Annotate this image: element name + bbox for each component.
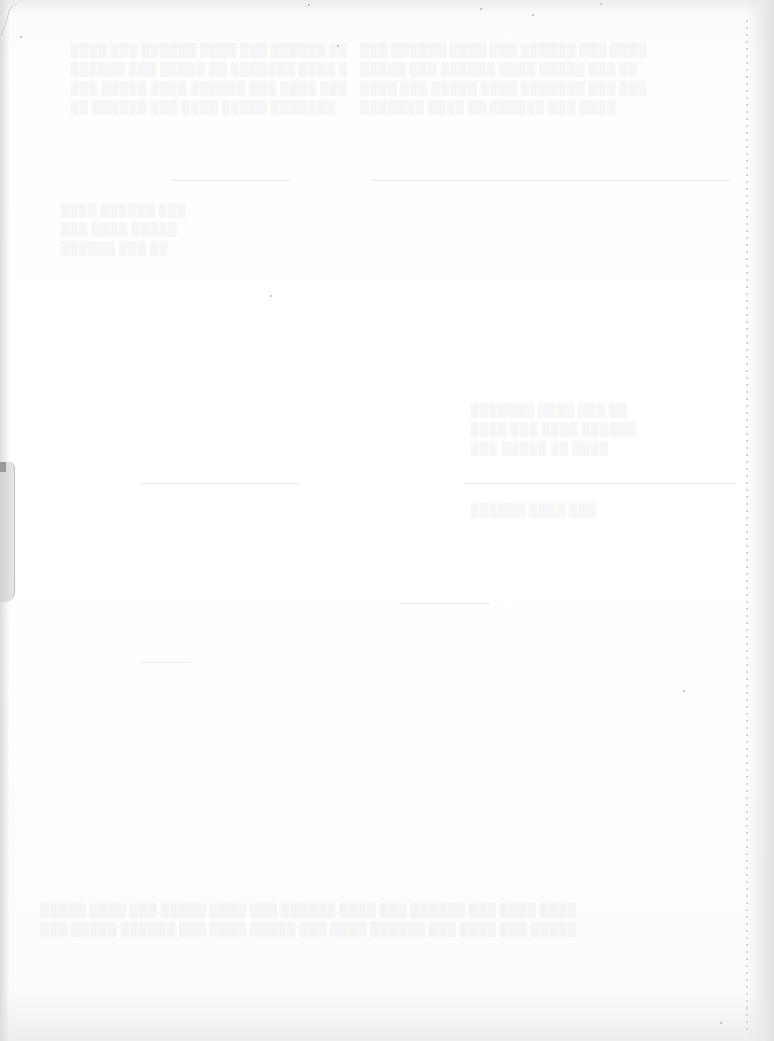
- faint-rule-1: [170, 180, 290, 181]
- faint-rule-4: [465, 483, 735, 484]
- bleed-through-text-top-right: ███ ██████ ████ ███ ██████ ███ ████ ████…: [360, 40, 647, 116]
- scan-speck: [532, 14, 534, 16]
- scan-speck: [683, 690, 685, 692]
- bleed-through-text-mid-right: ███████ ████ ███ ██ ████ ███ ████ ██████…: [470, 400, 636, 457]
- scan-speck: [20, 36, 22, 38]
- faint-rule-6: [140, 662, 190, 663]
- left-page-curl: [0, 462, 15, 602]
- binding-mark: [0, 462, 6, 472]
- perforated-edge: [746, 20, 748, 1030]
- scan-speck: [600, 3, 602, 5]
- scan-speck: [720, 1022, 722, 1024]
- scan-speck: [270, 295, 272, 297]
- bleed-through-text-bottom: █████ ████ ███ █████ ████ ███ ██████ ███…: [40, 900, 576, 938]
- bleed-through-text-lower-right: ██████ ████ ███: [470, 500, 596, 519]
- right-edge-shadow: [746, 0, 774, 1041]
- scanned-page: ████ ███ ██████ ████ ███ ██████ ██ █████…: [0, 0, 774, 1041]
- scan-speck: [308, 4, 310, 6]
- bleed-through-text-mid-left: ████ ██████ ███ ███ ████ █████ ██████ ██…: [60, 200, 186, 257]
- scan-speck: [480, 8, 482, 10]
- bleed-through-text-top-left: ████ ███ ██████ ████ ███ ██████ ██ █████…: [70, 40, 347, 116]
- scan-speck: [337, 45, 339, 47]
- faint-rule-3: [140, 483, 300, 484]
- faint-rule-2: [370, 180, 730, 181]
- faint-rule-5: [400, 603, 490, 604]
